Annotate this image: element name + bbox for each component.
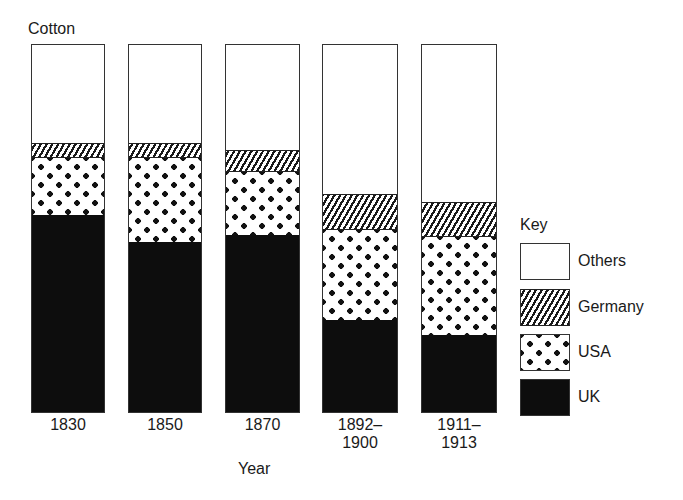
segment-uk <box>323 320 397 412</box>
legend-item-others: Others <box>520 242 626 280</box>
x-tick-label: 1892–1900 <box>315 416 405 452</box>
segment-others <box>226 45 299 150</box>
segment-others <box>32 45 104 143</box>
chart-title: Cotton <box>28 20 75 38</box>
bar-1830 <box>31 44 105 413</box>
swatch-uk-icon <box>520 379 570 416</box>
legend-label: Germany <box>578 298 644 316</box>
swatch-germany-icon <box>520 289 570 326</box>
legend-item-usa: USA <box>520 333 611 371</box>
segment-uk <box>129 242 201 412</box>
legend-label: USA <box>578 343 611 361</box>
segment-others <box>323 45 397 194</box>
x-tick-label: 1830 <box>23 416 113 434</box>
bar-1911–1913 <box>421 44 497 413</box>
bar-1892–1900 <box>322 44 398 413</box>
x-tick-label: 1850 <box>120 416 210 434</box>
bar-1850 <box>128 44 202 413</box>
x-tick-label: 1911–1913 <box>414 416 504 452</box>
segment-usa <box>32 158 104 216</box>
legend-label: Others <box>578 252 626 270</box>
legend-item-uk: UK <box>520 378 600 416</box>
legend-label: UK <box>578 388 600 406</box>
segment-germany <box>129 143 201 159</box>
segment-usa <box>129 158 201 242</box>
swatch-others-icon <box>520 243 570 280</box>
segment-germany <box>226 150 299 172</box>
segment-others <box>129 45 201 143</box>
x-tick-label: 1870 <box>218 416 308 434</box>
segment-uk <box>422 335 496 412</box>
x-axis-label: Year <box>238 460 270 478</box>
swatch-usa-icon <box>520 334 570 371</box>
segment-others <box>422 45 496 202</box>
segment-uk <box>32 215 104 412</box>
segment-usa <box>422 237 496 335</box>
segment-germany <box>32 143 104 158</box>
segment-uk <box>226 235 299 412</box>
segment-germany <box>323 194 397 230</box>
segment-usa <box>226 172 299 235</box>
legend-title: Key <box>520 216 548 234</box>
bar-1870 <box>225 44 300 413</box>
segment-germany <box>422 202 496 237</box>
legend-item-germany: Germany <box>520 288 644 326</box>
segment-usa <box>323 230 397 319</box>
